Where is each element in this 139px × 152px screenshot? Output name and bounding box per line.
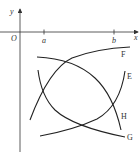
curve-label-e: E: [127, 72, 132, 81]
y-axis-label: y: [9, 7, 14, 16]
x-axis-label: x: [133, 33, 138, 42]
curve-label-h: H: [121, 112, 127, 121]
tick-label-a: a: [42, 36, 46, 45]
function-graph-diagram: y x O a b F E G H: [0, 0, 139, 152]
curve-label-g: G: [127, 133, 133, 142]
curve-label-f: F: [121, 50, 126, 59]
curve-h: [37, 57, 121, 130]
tick-label-b: b: [112, 36, 116, 45]
origin-label: O: [11, 34, 17, 43]
